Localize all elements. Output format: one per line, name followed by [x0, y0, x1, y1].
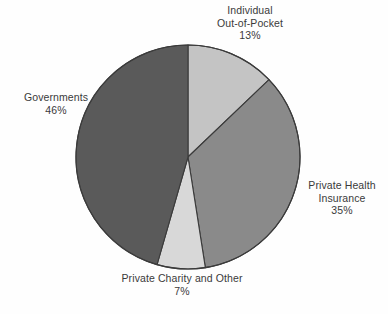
- slice-label-percent: 35%: [296, 204, 388, 217]
- slice-label-private-charity-and-other: Private Charity and Other 7%: [92, 272, 272, 297]
- slice-label-line-name-2: Out-of-Pocket: [196, 17, 304, 30]
- pie-chart-figure: Individual Out-of-Pocket 13% Private Hea…: [0, 0, 388, 314]
- slice-label-line-name-1: Private Charity and Other: [92, 272, 272, 285]
- slice-label-individual-out-of-pocket: Individual Out-of-Pocket 13%: [196, 4, 304, 42]
- slice-label-line-name-1: Individual: [196, 4, 304, 17]
- pie-chart-graphic: [0, 0, 388, 314]
- slice-label-line-name-1: Private Health: [296, 179, 388, 192]
- slice-label-percent: 13%: [196, 29, 304, 42]
- slice-label-line-name-2: Insurance: [296, 192, 388, 205]
- slice-label-percent: 7%: [92, 285, 272, 298]
- slice-label-governments: Governments 46%: [4, 91, 108, 116]
- slice-label-line-name-1: Governments: [4, 91, 108, 104]
- pie-slices: [76, 45, 300, 269]
- slice-label-private-health-insurance: Private Health Insurance 35%: [296, 179, 388, 217]
- slice-label-percent: 46%: [4, 104, 108, 117]
